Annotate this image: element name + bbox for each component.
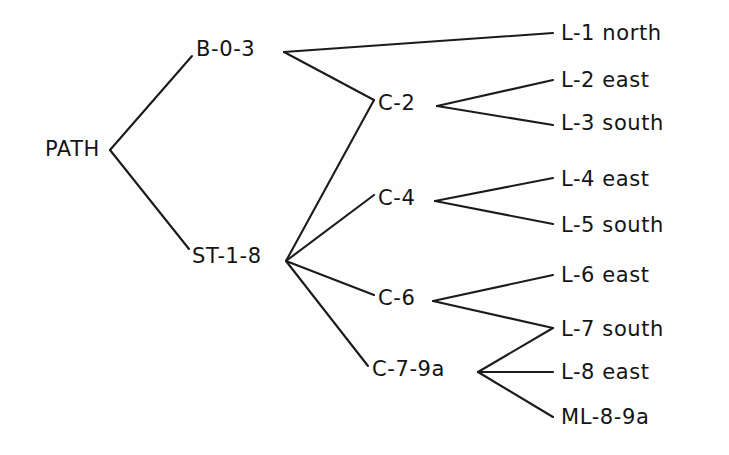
node-label-l6[interactable]: L-6 east (561, 263, 650, 287)
node-label-l4[interactable]: L-4 east (561, 167, 650, 191)
node-label-l5[interactable]: L-5 south (561, 213, 664, 237)
node-label-l2[interactable]: L-2 east (561, 68, 650, 92)
node-label-b03[interactable]: B-0-3 (196, 37, 255, 61)
node-label-st18[interactable]: ST-1-8 (192, 244, 262, 268)
tree-diagram-svg: PATHB-0-3ST-1-8C-2C-4C-6C-7-9aL-1 northL… (0, 0, 729, 455)
edge-c6-to-l7 (433, 301, 553, 328)
edge-c2-to-l3 (437, 106, 553, 125)
edge-group (110, 33, 553, 417)
edge-b03-to-c2 (284, 52, 374, 100)
edge-c79a-to-ml89a (478, 372, 553, 417)
edge-b03-to-l1 (284, 33, 553, 52)
node-label-l1[interactable]: L-1 north (561, 21, 662, 45)
node-label-l3[interactable]: L-3 south (561, 111, 664, 135)
edge-st18-to-c4 (286, 195, 374, 261)
edge-path-to-st18 (110, 150, 189, 249)
node-label-c4[interactable]: C-4 (378, 186, 415, 210)
edge-c6-to-l6 (433, 275, 553, 301)
edge-c4-to-l4 (435, 178, 553, 201)
node-label-c2[interactable]: C-2 (378, 91, 415, 115)
edge-c4-to-l5 (435, 201, 553, 224)
node-group: PATHB-0-3ST-1-8C-2C-4C-6C-7-9aL-1 northL… (45, 21, 664, 429)
edge-c2-to-l2 (437, 80, 553, 106)
edge-c79a-to-l7 (478, 328, 553, 372)
node-label-c79a[interactable]: C-7-9a (372, 357, 445, 381)
node-label-ml89a[interactable]: ML-8-9a (561, 405, 649, 429)
edge-path-to-b03 (110, 56, 192, 150)
node-label-path[interactable]: PATH (45, 137, 100, 161)
node-label-c6[interactable]: C-6 (378, 286, 415, 310)
node-label-l8[interactable]: L-8 east (561, 360, 650, 384)
node-label-l7[interactable]: L-7 south (561, 317, 664, 341)
edge-st18-to-c2 (286, 100, 374, 261)
tree-diagram-canvas: PATHB-0-3ST-1-8C-2C-4C-6C-7-9aL-1 northL… (0, 0, 729, 455)
